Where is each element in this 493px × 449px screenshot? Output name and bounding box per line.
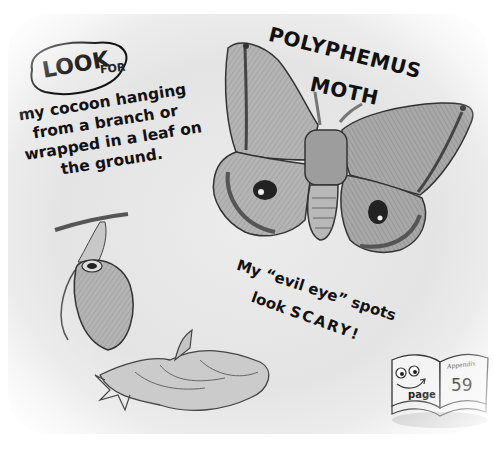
for-label: FOR [99,61,126,77]
page-number: 59 [451,375,473,395]
page-word: page [408,389,436,400]
hanging-cocoon-illustration [55,214,133,350]
moth-illustration [213,43,473,252]
